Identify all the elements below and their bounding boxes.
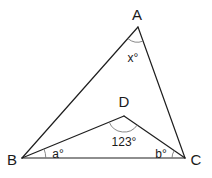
vertex-label-b: B <box>7 151 17 168</box>
vertex-label-a: A <box>132 6 142 23</box>
angle-arc-d <box>109 122 137 132</box>
angle-arc-c <box>172 151 174 158</box>
segment-bd <box>22 116 124 158</box>
angle-label-x: x° <box>128 51 139 65</box>
triangle-diagram: A B C D x° 123° a° b° <box>0 0 212 178</box>
angle-label-a: a° <box>52 147 64 161</box>
vertex-label-c: C <box>191 151 202 168</box>
segment-ac <box>138 27 185 158</box>
angle-label-b: b° <box>155 147 167 161</box>
angle-arc-a <box>128 39 143 43</box>
angle-label-123: 123° <box>112 135 137 149</box>
vertex-label-d: D <box>119 93 130 110</box>
angle-arc-b <box>44 149 46 158</box>
